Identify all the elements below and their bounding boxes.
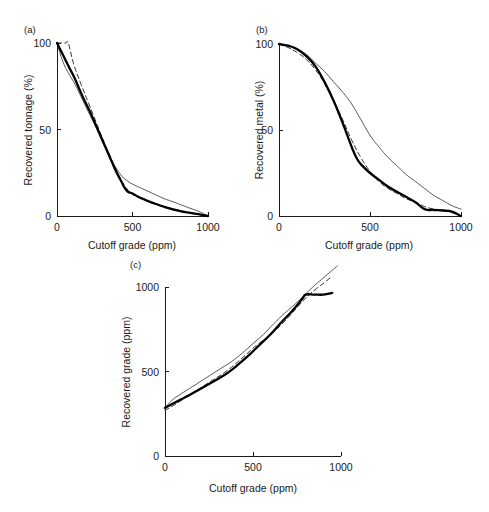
panel-b-y-axis-title: Recovered metal (%) <box>253 81 265 180</box>
panel-a-x-axis-title: Cutoff grade (ppm) <box>88 239 176 251</box>
x-tick-label: 0 <box>54 221 60 233</box>
panel-a-curves <box>57 41 208 216</box>
panel-c-tick-marks <box>165 287 341 456</box>
y-tick-label: 50 <box>39 124 51 136</box>
y-tick-label: 0 <box>153 450 159 462</box>
y-tick-label: 500 <box>141 366 159 378</box>
panel-a-tick-marks <box>57 43 208 216</box>
panel-b-svg: (b) 05001000 050100 Cutoff grade (ppm) R… <box>244 0 489 256</box>
x-tick-label: 1000 <box>329 461 353 473</box>
panel-a-y-tick-labels: 050100 <box>33 37 51 222</box>
panel-b-label: (b) <box>256 24 268 35</box>
panel-c-x-tick-labels: 05001000 <box>162 461 353 473</box>
curve-thick-solid <box>57 43 208 216</box>
panel-a-axes <box>57 43 208 216</box>
panel-a-x-tick-labels: 05001000 <box>54 221 220 233</box>
panel-b-curves <box>279 44 461 216</box>
x-tick-label: 500 <box>124 221 142 233</box>
panel-a-plot-area: 05001000 050100 <box>33 37 219 233</box>
panel-c-label: (c) <box>130 259 141 270</box>
x-tick-label: 0 <box>162 461 168 473</box>
y-tick-label: 100 <box>255 38 273 50</box>
panel-c-y-tick-labels: 05001000 <box>136 281 160 462</box>
panel-c-svg: (c) 05001000 05001000 Cutoff grade (ppm)… <box>110 254 400 512</box>
panel-a-label: (a) <box>24 24 36 35</box>
panel-b-plot-area: 05001000 050100 <box>255 38 472 233</box>
curve-dashed <box>165 276 332 410</box>
curve-thin-solid <box>165 266 337 408</box>
panel-b-x-axis-title: Cutoff grade (ppm) <box>325 239 413 251</box>
panel-a-y-axis-title: Recovered tonnage (%) <box>22 75 34 186</box>
y-tick-label: 100 <box>33 37 51 49</box>
x-tick-label: 500 <box>361 221 379 233</box>
panel-c-axes <box>165 287 341 456</box>
x-tick-label: 1000 <box>196 221 220 233</box>
curve-dashed <box>279 44 461 216</box>
panel-b: (b) 05001000 050100 Cutoff grade (ppm) R… <box>244 0 489 256</box>
panel-c-curves <box>165 266 337 410</box>
panel-c-plot-area: 05001000 05001000 <box>136 266 353 473</box>
panel-b-tick-marks <box>279 44 461 216</box>
x-tick-label: 0 <box>276 221 282 233</box>
panel-b-x-tick-labels: 05001000 <box>276 221 473 233</box>
x-tick-label: 500 <box>244 461 262 473</box>
panel-b-axes <box>279 44 461 216</box>
curve-thin-solid <box>279 44 461 209</box>
figure-recovery-curves: (a) 05001000 050100 Cutoff grade (ppm) R… <box>0 0 489 512</box>
panel-a: (a) 05001000 050100 Cutoff grade (ppm) R… <box>0 0 244 256</box>
y-tick-label: 0 <box>267 210 273 222</box>
panel-c-x-axis-title: Cutoff grade (ppm) <box>209 482 297 494</box>
x-tick-label: 1000 <box>449 221 473 233</box>
panel-c-y-axis-title: Recovered grade (ppm) <box>120 317 132 428</box>
panel-c: (c) 05001000 05001000 Cutoff grade (ppm)… <box>110 254 400 512</box>
curve-thin-solid <box>57 43 208 216</box>
y-tick-label: 0 <box>45 210 51 222</box>
panel-a-svg: (a) 05001000 050100 Cutoff grade (ppm) R… <box>0 0 244 256</box>
curve-thick-solid <box>279 44 461 216</box>
y-tick-label: 1000 <box>136 281 160 293</box>
curve-dashed <box>57 41 208 216</box>
curve-thick-solid <box>165 293 332 408</box>
